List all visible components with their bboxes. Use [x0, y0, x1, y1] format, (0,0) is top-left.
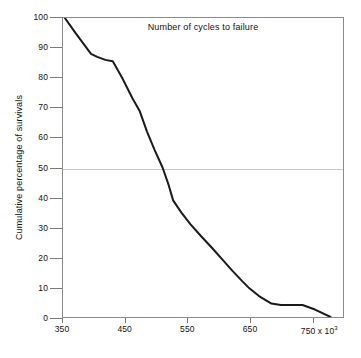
y-tick-label-40: 40 — [38, 193, 48, 202]
x-tick-label-550: 550 — [180, 325, 194, 334]
y-tick-label-50: 50 — [38, 163, 48, 172]
x-tick-label-650: 650 — [243, 325, 257, 334]
y-tick-label-100: 100 — [34, 13, 48, 22]
x-tick-650 — [250, 318, 251, 323]
y-tick-label-60: 60 — [38, 133, 48, 142]
x-tick-label-750: 750 x 103 — [301, 325, 338, 335]
y-tick-10 — [50, 288, 62, 289]
y-tick-100 — [50, 17, 62, 18]
y-tick-label-90: 90 — [38, 43, 48, 52]
y-tick-60 — [50, 137, 62, 138]
y-tick-50 — [50, 168, 62, 169]
y-axis-title: Cumulative percentage of survivals — [10, 17, 28, 318]
plot-inner — [63, 18, 343, 317]
x-units-exponent: 3 — [334, 325, 337, 331]
x-axis-title: Number of cycles to failure — [62, 22, 344, 32]
y-tick-label-30: 30 — [38, 223, 48, 232]
y-tick-40 — [50, 198, 62, 199]
y-tick-label-80: 80 — [38, 73, 48, 82]
plot-area — [62, 17, 344, 318]
y-tick-label-20: 20 — [38, 254, 48, 263]
x-tick-450 — [125, 318, 126, 323]
chart-figure: 0102030405060708090100 Cumulative percen… — [0, 0, 361, 358]
data-series-line — [63, 18, 343, 317]
y-tick-label-10: 10 — [38, 284, 48, 293]
x-tick-label-450: 450 — [117, 325, 131, 334]
y-tick-20 — [50, 258, 62, 259]
x-tick-label-350: 350 — [55, 325, 69, 334]
x-tick-550 — [187, 318, 188, 323]
y-tick-80 — [50, 77, 62, 78]
y-tick-90 — [50, 47, 62, 48]
y-tick-30 — [50, 228, 62, 229]
x-axis: 350450550650750 x 103 — [0, 318, 361, 358]
x-tick-750 — [313, 318, 314, 323]
x-tick-350 — [62, 318, 63, 323]
y-tick-70 — [50, 107, 62, 108]
y-tick-label-70: 70 — [38, 103, 48, 112]
